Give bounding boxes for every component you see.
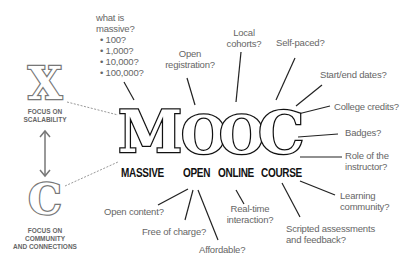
massive-option: 1,000?: [100, 45, 144, 56]
label-line: FOCUS ON: [10, 227, 80, 235]
note-line: Scripted assessments: [286, 223, 375, 234]
massive-option: 100,000?: [100, 67, 144, 78]
label-line: SCALABILITY: [14, 116, 76, 124]
focus-scalability-label: FOCUS ON SCALABILITY: [14, 108, 76, 124]
note-line: community?: [340, 201, 389, 212]
note-college-credits: College credits?: [334, 101, 399, 112]
note-line: massive?: [96, 23, 144, 34]
note-line: Learning: [340, 190, 389, 201]
note-open-content: Open content?: [104, 206, 164, 217]
note-free-of-charge: Free of charge?: [142, 226, 206, 237]
label-open: OPEN: [183, 165, 210, 179]
note-learning-community: Learning community?: [340, 190, 389, 212]
label-massive: MASSIVE: [121, 165, 164, 179]
note-line: instructor?: [345, 161, 389, 172]
label-line: FOCUS ON: [14, 108, 76, 116]
note-line: Real-time: [225, 203, 275, 214]
note-line: Local: [222, 27, 266, 38]
note-role-instructor: Role of the instructor?: [345, 150, 389, 172]
note-self-paced: Self-paced?: [276, 37, 325, 48]
massive-option: 100?: [100, 34, 144, 45]
letter-m: M: [118, 102, 164, 162]
note-line: Role of the: [345, 150, 389, 161]
note-start-end-dates: Start/end dates?: [320, 69, 387, 80]
option-text: 100,000?: [106, 67, 144, 78]
massive-option: 10,000?: [100, 56, 144, 67]
label-course: COURSE: [261, 165, 302, 179]
option-text: 100?: [106, 34, 126, 45]
note-realtime-interaction: Real-time interaction?: [225, 203, 275, 225]
note-line: Open: [165, 48, 215, 59]
label-line: AND CONNECTIONS: [10, 243, 80, 251]
note-open-registration: Open registration?: [165, 48, 215, 70]
letter-c-course: C: [258, 104, 302, 162]
x-icon: X: [22, 62, 68, 106]
note-line: cohorts?: [222, 38, 266, 49]
label-online: ONLINE: [218, 165, 254, 179]
note-scripted-assessments: Scripted assessments and feedback?: [286, 223, 375, 245]
note-line: and feedback?: [286, 234, 375, 245]
c-icon: C: [22, 178, 68, 222]
option-text: 1,000?: [106, 45, 134, 56]
letter-o-open: O: [181, 108, 217, 162]
note-affordable: Affordable?: [199, 244, 245, 255]
focus-community-label: FOCUS ON COMMUNITY AND CONNECTIONS: [10, 227, 80, 251]
option-text: 10,000?: [106, 56, 139, 67]
note-local-cohorts: Local cohorts?: [222, 27, 266, 49]
note-line: what is: [96, 12, 144, 23]
massive-note: what is massive? 100? 1,000? 10,000? 100…: [96, 12, 144, 78]
note-badges: Badges?: [345, 127, 381, 138]
letter-o-online: O: [219, 108, 255, 162]
note-line: interaction?: [225, 214, 275, 225]
label-line: COMMUNITY: [10, 235, 80, 243]
note-line: registration?: [165, 59, 215, 70]
